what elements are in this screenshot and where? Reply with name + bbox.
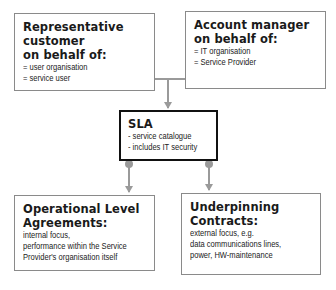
uc-item: external focus, e.g.	[190, 228, 297, 239]
account-manager-box: Account manager on behalf of: = IT organ…	[185, 11, 326, 89]
arrow-sla-to-uc	[205, 160, 213, 190]
customer-item: = user organisation	[23, 62, 131, 73]
uc-item: data communications lines,	[190, 239, 297, 250]
ola-item: internal focus,	[23, 230, 131, 241]
ola-title-line-1: Operational Level	[23, 202, 146, 216]
arrow-sla-to-ola	[125, 160, 133, 192]
account-manager-item: = IT organisation	[194, 46, 302, 57]
sla-item: - service catalogue	[128, 131, 199, 142]
customer-title-line-1: Representative customer	[23, 20, 146, 48]
ola-title-line-2: Agreements:	[23, 216, 146, 230]
customer-title-line-2: on behalf of:	[23, 48, 146, 62]
account-manager-title-line-2: on behalf of:	[194, 32, 317, 46]
ola-box: Operational Level Agreements: internal f…	[14, 195, 155, 271]
customer-box: Representative customer on behalf of: = …	[14, 13, 155, 91]
uc-box: Underpinning Contracts: external focus, …	[181, 193, 321, 275]
account-manager-title-line-1: Account manager	[194, 18, 317, 32]
uc-title: Underpinning Contracts:	[190, 200, 312, 228]
customer-item: = service user	[23, 73, 131, 84]
sla-item: - includes IT security	[128, 142, 199, 153]
sla-title: SLA	[128, 117, 209, 131]
sla-box: SLA - service catalogue - includes IT se…	[119, 110, 218, 161]
ola-item: Provider's organisation itself	[23, 252, 131, 263]
ola-item: performance within the Service	[23, 241, 131, 252]
uc-item: power, HW-maintenance	[190, 250, 297, 261]
account-manager-item: = Service Provider	[194, 57, 302, 68]
